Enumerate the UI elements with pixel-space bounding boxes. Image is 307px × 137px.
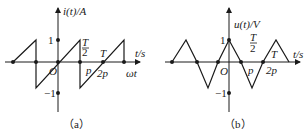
two-pi-label-b: 2p bbox=[266, 64, 278, 76]
figure-canvas: i(t)/A 1 −1 O T 2 T t/s p 2p ωt （a） u bbox=[0, 0, 307, 137]
pi-label-a: p bbox=[85, 64, 92, 76]
caption-a: （a） bbox=[63, 118, 90, 130]
tick-label-pos-b: 1 bbox=[220, 34, 226, 46]
half-period-den-b: 2 bbox=[250, 42, 256, 54]
origin-label-a: O bbox=[49, 65, 57, 77]
tick-label-pos-a: 1 bbox=[48, 34, 54, 46]
two-pi-label-a: 2p bbox=[97, 67, 109, 79]
x-axis-label-b: t/s bbox=[293, 48, 303, 60]
figure-b: u(t)/V 1 −1 O T 2 T t/s p 2p （b） bbox=[165, 8, 303, 130]
half-period-den-a: 2 bbox=[82, 46, 88, 58]
tick-label-neg-b: −1 bbox=[215, 87, 227, 99]
period-label-b: T bbox=[271, 48, 278, 60]
period-label-a: T bbox=[100, 47, 107, 59]
origin-label-b: O bbox=[220, 65, 228, 77]
x-axis-label-a: t/s bbox=[135, 47, 145, 59]
y-axis-label-b: u(t)/V bbox=[234, 18, 261, 31]
pi-label-b: p bbox=[247, 64, 254, 76]
tick-label-neg-a: −1 bbox=[44, 87, 56, 99]
omega-t-label-a: ωt bbox=[126, 67, 138, 79]
figure-a: i(t)/A 1 −1 O T 2 T t/s p 2p ωt （a） bbox=[5, 5, 145, 130]
y-axis-label-a: i(t)/A bbox=[63, 5, 86, 18]
sawtooth-waveform bbox=[13, 40, 124, 88]
caption-b: （b） bbox=[224, 118, 252, 130]
axis-points-a bbox=[11, 38, 126, 95]
